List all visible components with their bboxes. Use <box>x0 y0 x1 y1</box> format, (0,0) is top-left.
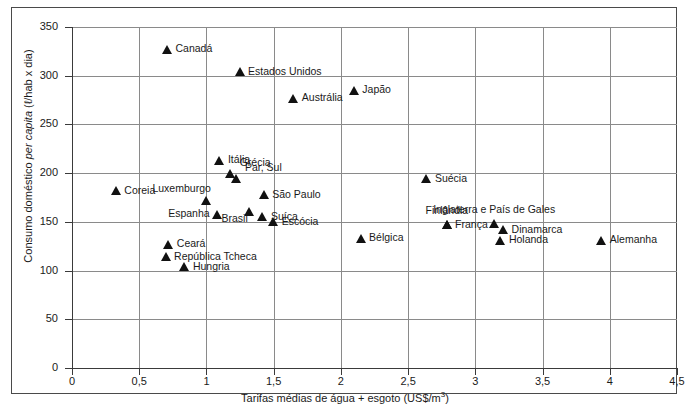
x-axis-tick <box>610 368 611 375</box>
gridline-horizontal <box>72 124 677 125</box>
data-point-label: Luxemburgo <box>152 183 210 194</box>
y-axis-title-post: (ℓ/hab x dia) <box>22 49 34 111</box>
x-axis-tick-label: 4,5 <box>657 375 690 387</box>
data-point-label: Japão <box>362 84 391 95</box>
x-axis-tick-label: 1 <box>186 375 226 387</box>
data-point-label: Brasil <box>221 213 247 224</box>
data-point-label: Coreia <box>124 185 155 196</box>
gridline-horizontal <box>72 173 677 174</box>
x-axis-tick <box>341 368 342 375</box>
data-point-label: São Paulo <box>272 189 320 200</box>
x-axis-tick <box>274 368 275 375</box>
data-point-marker <box>288 94 298 103</box>
gridline-vertical <box>408 27 409 368</box>
x-axis-tick <box>206 368 207 375</box>
x-axis-tick-label: 4 <box>590 375 630 387</box>
data-point-marker <box>356 234 366 243</box>
x-axis-tick <box>677 368 678 375</box>
gridline-horizontal <box>72 27 677 28</box>
x-axis-tick-label: 1,5 <box>254 375 294 387</box>
x-axis-tick <box>139 368 140 375</box>
data-point-label: França <box>455 219 488 230</box>
data-point-marker <box>498 225 508 234</box>
gridline-vertical <box>543 27 544 368</box>
data-point-marker <box>161 252 171 261</box>
data-point-label: Canadá <box>175 43 212 54</box>
y-axis-title-pre: Consumo doméstico <box>22 159 34 262</box>
data-point-marker <box>442 220 452 229</box>
x-axis-tick <box>543 368 544 375</box>
data-point-label: Escócia <box>282 216 319 227</box>
data-point-label: Par, Sul <box>245 162 282 173</box>
gridline-vertical <box>341 27 342 368</box>
data-point-label: Estados Unidos <box>248 66 322 77</box>
data-point-marker <box>495 236 505 245</box>
data-point-label: Hungria <box>193 261 230 272</box>
data-point-label: Alemanha <box>610 234 657 245</box>
data-point-marker <box>268 217 278 226</box>
x-axis-tick-label: 2 <box>321 375 361 387</box>
gridline-horizontal <box>72 271 677 272</box>
chart-frame <box>11 7 677 394</box>
x-axis-tick <box>475 368 476 375</box>
x-axis-tick-label: 3,5 <box>523 375 563 387</box>
data-point-label: Ceará <box>177 238 206 249</box>
data-point-marker <box>231 174 241 183</box>
x-axis-tick-label: 0,5 <box>119 375 159 387</box>
data-point-marker <box>212 210 222 219</box>
gridline-horizontal <box>72 222 677 223</box>
gridline-vertical <box>139 27 140 368</box>
data-point-label: Holanda <box>509 234 548 245</box>
x-axis-line <box>72 368 678 369</box>
x-axis-tick-label: 3 <box>455 375 495 387</box>
figure-caption <box>12 400 682 411</box>
x-axis-tick-label: 2,5 <box>388 375 428 387</box>
data-point-marker <box>162 45 172 54</box>
data-point-label: Bélgica <box>369 232 403 243</box>
data-point-marker <box>201 196 211 205</box>
data-point-marker <box>259 190 269 199</box>
data-point-label: Finlândia <box>426 205 469 216</box>
gridline-horizontal <box>72 76 677 77</box>
data-point-marker <box>179 262 189 271</box>
data-point-marker <box>111 186 121 195</box>
data-point-label: Suécia <box>435 173 467 184</box>
x-axis-tick <box>72 368 73 375</box>
gridline-vertical <box>610 27 611 368</box>
data-point-marker <box>163 240 173 249</box>
gridline-vertical <box>475 27 476 368</box>
data-point-label: Espanha <box>168 208 209 219</box>
data-point-marker <box>421 174 431 183</box>
data-point-label: Austrália <box>302 92 343 103</box>
x-axis-tick <box>408 368 409 375</box>
data-point-marker <box>596 236 606 245</box>
y-axis-title: Consumo doméstico per capita (ℓ/hab x di… <box>22 0 34 326</box>
data-point-marker <box>349 86 359 95</box>
y-axis-line <box>72 27 73 368</box>
y-axis-tick-label: 0 <box>18 362 58 373</box>
data-point-marker <box>214 156 224 165</box>
gridline-horizontal <box>72 319 677 320</box>
data-point-marker <box>235 67 245 76</box>
data-point-marker <box>257 212 267 221</box>
x-axis-tick-label: 0 <box>52 375 92 387</box>
y-axis-title-italic: per capita <box>22 111 34 159</box>
figure-container: 05010015020025030035000,511,522,533,544,… <box>0 0 690 412</box>
